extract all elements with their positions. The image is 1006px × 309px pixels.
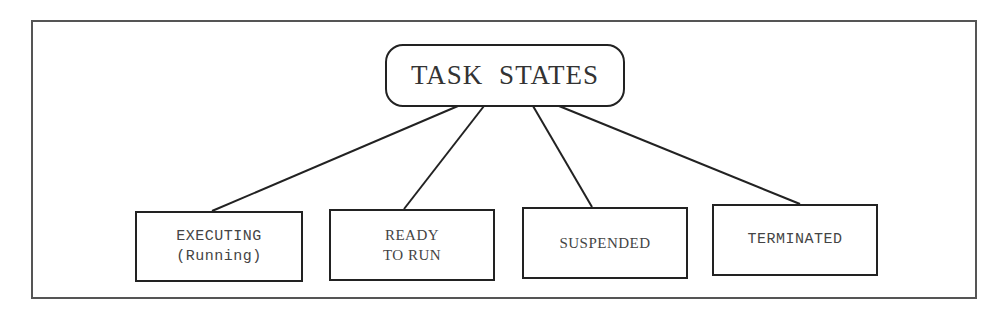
state-suspended-node: SUSPENDED [522,207,688,279]
state-executing-sublabel: (Running) [176,247,262,267]
connector-terminated [559,106,800,204]
state-ready-label: READY [385,225,439,245]
state-executing-node: EXECUTING (Running) [135,211,303,282]
task-states-root-node: TASK STATES [385,44,625,107]
state-suspended-label: SUSPENDED [559,233,650,253]
root-label: TASK STATES [411,60,599,91]
state-ready-sublabel: TO RUN [383,245,441,265]
state-terminated-label: TERMINATED [747,230,842,250]
connector-executing [212,106,458,211]
connector-suspended [533,106,592,207]
state-terminated-node: TERMINATED [712,204,878,276]
connector-ready [404,106,484,209]
state-executing-label: EXECUTING [176,227,262,247]
state-ready-node: READY TO RUN [329,209,495,281]
